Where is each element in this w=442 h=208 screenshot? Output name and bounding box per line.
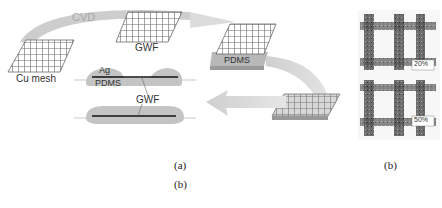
strain-label-20: 20% bbox=[414, 60, 428, 67]
cross-section-gwf bbox=[74, 104, 196, 124]
gwf-mesh-icon bbox=[116, 12, 182, 42]
cu-mesh-label: Cu mesh bbox=[16, 73, 56, 84]
figure-illustration bbox=[0, 0, 442, 208]
cross-section-ag-pdms bbox=[74, 68, 196, 96]
cu-mesh-icon bbox=[8, 40, 74, 72]
ag-label: Ag bbox=[99, 65, 110, 75]
cvd-label: CVD bbox=[72, 11, 95, 23]
strain-label-50: 50% bbox=[414, 116, 428, 123]
caption-b-secondary: (b) bbox=[174, 178, 187, 190]
gwf-cross-section-label: GWF bbox=[136, 94, 159, 105]
pdms-substrate-label: PDMS bbox=[224, 55, 250, 65]
caption-b: (b) bbox=[384, 159, 397, 171]
caption-a: (a) bbox=[174, 159, 186, 171]
gwf-label: GWF bbox=[135, 42, 158, 53]
pdms-cross-section-label: PDMS bbox=[95, 78, 121, 88]
